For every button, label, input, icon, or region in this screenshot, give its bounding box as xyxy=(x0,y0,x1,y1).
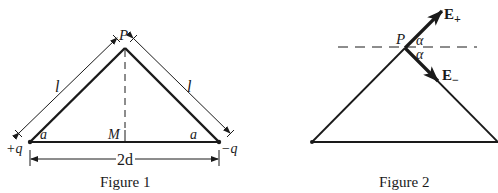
apex-label: P xyxy=(395,31,405,47)
figure-2-caption: Figure 2 xyxy=(379,174,429,190)
field-minus-label: E− xyxy=(442,67,459,87)
field-plus-label: E+ xyxy=(444,6,461,26)
right-charge-label: −q xyxy=(221,141,237,156)
upper-angle-label: α xyxy=(416,33,424,48)
right-length-label: l xyxy=(187,78,192,95)
left-length-dimension xyxy=(19,38,117,133)
diagram-canvas: P l l a a M +q −q 2d Figure 1 P α α E+ E… xyxy=(0,0,498,193)
right-angle-label: a xyxy=(190,127,197,142)
right-side xyxy=(125,48,219,142)
field-plus-vector xyxy=(405,11,442,48)
left-side xyxy=(312,48,405,142)
figure-2: P α α E+ E− Figure 2 xyxy=(310,6,498,190)
figure-1-caption: Figure 1 xyxy=(100,174,150,190)
left-angle-label: a xyxy=(40,127,47,142)
midpoint-label: M xyxy=(107,127,121,142)
right-length-dimension xyxy=(133,38,230,133)
left-vertex-dot xyxy=(310,140,314,144)
charge-plus-dot xyxy=(28,140,32,144)
figure-1: P l l a a M +q −q 2d Figure 1 xyxy=(6,27,237,190)
lower-angle-label: α xyxy=(416,47,424,62)
apex-label: P xyxy=(118,27,128,43)
left-charge-label: +q xyxy=(6,141,22,156)
left-length-label: l xyxy=(55,78,60,95)
base-length-label: 2d xyxy=(117,151,133,168)
